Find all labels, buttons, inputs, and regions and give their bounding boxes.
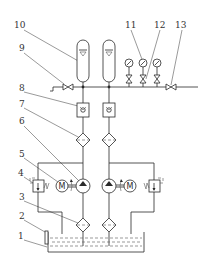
- label-2: 2: [19, 211, 25, 221]
- drain-valve-icon[interactable]: [63, 84, 73, 90]
- pressure-gauge-2-icon: [139, 59, 147, 75]
- accumulator-right-icon: [103, 40, 115, 87]
- check-valve-right-icon: [103, 103, 115, 117]
- level-gauge-icon: [45, 231, 48, 244]
- label-5: 5: [19, 149, 25, 159]
- accumulator-left-icon: [77, 40, 89, 87]
- relief-valve-right-icon: [144, 178, 163, 192]
- oil-tank-icon: [48, 232, 144, 252]
- pump-left-icon: [76, 179, 90, 193]
- component-labels: 1 2 3 4 5 6 7 8 9 10 11 12 13: [14, 20, 187, 241]
- label-7: 7: [19, 99, 25, 109]
- suction-filter-right-icon: [102, 218, 116, 232]
- label-8: 8: [19, 83, 25, 93]
- label-9: 9: [19, 43, 25, 53]
- motor-right-label: M: [127, 182, 134, 191]
- motor-right-icon: M: [124, 180, 136, 192]
- motor-left-icon: M: [56, 180, 68, 192]
- gauge-valve-2-icon[interactable]: [140, 75, 146, 87]
- label-12: 12: [154, 20, 165, 30]
- relief-valve-left-icon: [30, 178, 49, 192]
- upper-relief-lines: [38, 163, 154, 180]
- label-6: 6: [19, 116, 25, 126]
- schematic-svg: 1 2 3 4 5 6 7 8 9 10 11 12 13: [0, 0, 212, 267]
- pump-right-icon: [102, 179, 116, 193]
- label-3: 3: [19, 192, 25, 202]
- hydraulic-diagram: 1 2 3 4 5 6 7 8 9 10 11 12 13: [0, 0, 212, 267]
- label-4: 4: [18, 168, 24, 178]
- label-13: 13: [175, 20, 187, 30]
- motor-left-label: M: [59, 182, 66, 191]
- pressure-gauge-3-icon: [153, 59, 161, 75]
- gauge-valve-3-icon[interactable]: [154, 75, 160, 87]
- label-10: 10: [14, 20, 26, 30]
- return-lines: [38, 192, 154, 234]
- check-valve-left-icon: [77, 103, 89, 117]
- label-1: 1: [18, 231, 24, 241]
- pressure-filter-left-icon: [76, 133, 90, 147]
- gauge-valve-1-icon[interactable]: [126, 75, 132, 87]
- pressure-filter-right-icon: [102, 133, 116, 147]
- label-11: 11: [125, 20, 136, 30]
- pressure-gauge-1-icon: [125, 59, 133, 75]
- suction-filter-left-icon: [76, 218, 90, 232]
